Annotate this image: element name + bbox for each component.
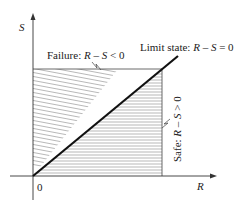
origin-label: 0 xyxy=(37,181,43,193)
y-axis-arrow-icon xyxy=(31,13,36,20)
limit-state-label: Limit state: R – S = 0 xyxy=(140,41,234,53)
x-axis-arrow-icon xyxy=(210,174,217,179)
y-axis-label: S xyxy=(19,21,25,33)
failure-label: Failure: R – S < 0 xyxy=(47,49,125,61)
x-axis-label: R xyxy=(196,180,204,192)
safe-label: Safe: R – S > 0 xyxy=(171,96,183,162)
safe-leader-icon xyxy=(162,119,170,128)
limit-state-diagram: S R 0 Failure: R – S < 0 Limit state: R … xyxy=(0,0,249,208)
